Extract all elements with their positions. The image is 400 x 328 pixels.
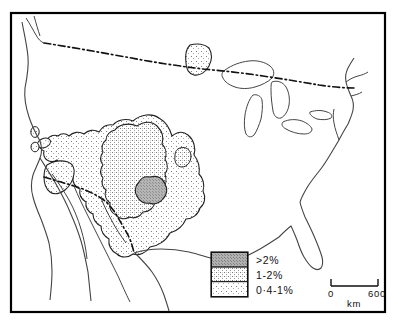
map-canvas: >2% 1-2% 0·4-1% 0 600 km	[0, 0, 400, 328]
legend-label-above-2-percent: >2%	[256, 254, 279, 266]
scale-start-label: 0	[328, 288, 334, 299]
scale-unit-label: km	[347, 298, 361, 309]
region-core-above-2-percent	[135, 176, 166, 203]
legend-label-04-to-1-percent: 0·4-1%	[256, 284, 293, 296]
map-figure: >2% 1-2% 0·4-1% 0 600 km	[0, 0, 400, 328]
legend-swatch-above-2-percent	[212, 253, 248, 268]
region-california-small-patch-3	[31, 142, 39, 152]
legend-label-1-to-2-percent: 1-2%	[256, 269, 283, 281]
scale-end-label: 600	[368, 288, 386, 299]
legend-swatch-04-to-1-percent	[212, 282, 248, 297]
legend-swatch-1-to-2-percent	[212, 267, 248, 282]
region-kansas-nebraska-patch	[175, 147, 191, 167]
